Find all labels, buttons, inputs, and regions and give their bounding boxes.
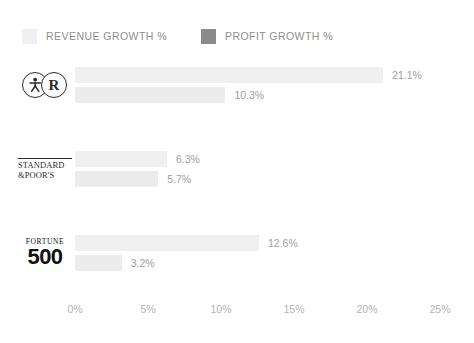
bar-value-label-profit: 5.7% <box>167 173 191 185</box>
legend-swatch-revenue <box>22 29 37 44</box>
bar-row-revenue: 6.3% <box>75 151 200 167</box>
logo-line-1: STANDARD <box>18 160 72 170</box>
x-axis-tick-label: 0% <box>67 303 82 315</box>
running-figure-r-logo: R <box>18 62 72 108</box>
bar-revenue[interactable] <box>75 151 167 167</box>
legend-label-revenue: REVENUE GROWTH % <box>46 30 167 42</box>
plot-area: R21.1%10.3%STANDARD&POOR'S6.3%5.7%FORTUN… <box>0 58 474 303</box>
bar-row-profit: 3.2% <box>75 255 155 271</box>
x-axis-tick-label: 25% <box>429 303 450 315</box>
logo-rings: R <box>22 72 68 98</box>
x-axis-tick-label: 5% <box>140 303 155 315</box>
bar-group: FORTUNE50012.6%3.2% <box>0 230 474 276</box>
bar-group: STANDARD&POOR'S6.3%5.7% <box>0 146 474 192</box>
bar-profit[interactable] <box>75 87 225 103</box>
bar-value-label-profit: 10.3% <box>234 89 264 101</box>
legend-entry-profit[interactable]: PROFIT GROWTH % <box>201 29 333 44</box>
logo-number: 500 <box>18 246 72 268</box>
bar-profit[interactable] <box>75 255 122 271</box>
bar-row-profit: 10.3% <box>75 87 264 103</box>
logo-letter-ring: R <box>41 72 67 98</box>
x-axis-tick-label: 10% <box>210 303 231 315</box>
bar-profit[interactable] <box>75 171 158 187</box>
legend-label-profit: PROFIT GROWTH % <box>225 30 333 42</box>
standard-poors-wordmark: STANDARD&POOR'S <box>18 158 72 180</box>
legend-swatch-profit <box>201 29 216 44</box>
bar-revenue[interactable] <box>75 235 259 251</box>
x-axis-tick-label: 15% <box>283 303 304 315</box>
bar-value-label-profit: 3.2% <box>131 257 155 269</box>
bar-revenue[interactable] <box>75 67 383 83</box>
logo-letter: R <box>49 78 60 93</box>
bar-group-bars: 21.1%10.3% <box>75 62 474 108</box>
logo-line-2: &POOR'S <box>18 170 72 180</box>
standard-poors-logo: STANDARD&POOR'S <box>18 146 72 192</box>
x-axis: 0%5%10%15%20%25% <box>0 303 474 323</box>
bar-value-label-revenue: 12.6% <box>268 237 298 249</box>
bar-group-bars: 12.6%3.2% <box>75 230 474 276</box>
chart-legend: REVENUE GROWTH %PROFIT GROWTH % <box>22 26 367 46</box>
bar-group-bars: 6.3%5.7% <box>75 146 474 192</box>
x-axis-tick-label: 20% <box>356 303 377 315</box>
fortune-500-logo: FORTUNE500 <box>18 230 72 276</box>
bar-value-label-revenue: 21.1% <box>392 69 422 81</box>
bar-row-profit: 5.7% <box>75 171 191 187</box>
legend-entry-revenue[interactable]: REVENUE GROWTH % <box>22 29 167 44</box>
logo-rule <box>18 158 72 159</box>
bar-value-label-revenue: 6.3% <box>176 153 200 165</box>
bar-row-revenue: 12.6% <box>75 235 298 251</box>
bar-group: R21.1%10.3% <box>0 62 474 108</box>
fortune-wordmark: FORTUNE500 <box>18 238 72 269</box>
bar-chart: REVENUE GROWTH %PROFIT GROWTH % R21.1%10… <box>0 0 474 343</box>
bar-row-revenue: 21.1% <box>75 67 422 83</box>
